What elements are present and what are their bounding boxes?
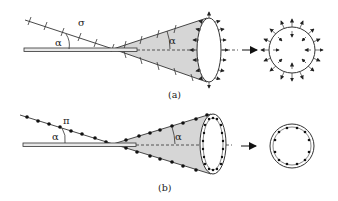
panel-a: σ α α — [24, 12, 323, 100]
alpha-label-left-a: α — [55, 37, 62, 48]
alpha-label-left-b: α — [52, 131, 59, 142]
cone-rotation-diagram: σ α α — [0, 0, 338, 201]
rod-a — [24, 48, 137, 52]
cone-base-ellipse-b — [200, 114, 226, 174]
alpha-label-cone-a: α — [169, 35, 176, 46]
pi-label: π — [63, 115, 70, 126]
angle-arc-left-b — [62, 128, 65, 143]
charged-line-a — [25, 20, 113, 49]
caption-a: (a) — [168, 89, 181, 100]
panel-b: π α α (b) — [20, 113, 314, 193]
alpha-label-cone-b: α — [175, 131, 182, 142]
field-arrows-circle-a — [261, 19, 323, 81]
cone-base-ellipse-a — [197, 18, 221, 82]
rod-b — [23, 143, 136, 147]
angle-arc-left-a — [66, 34, 69, 49]
caption-b: (b) — [158, 182, 172, 193]
inner-arrows-circle-a — [273, 31, 311, 69]
sigma-label: σ — [78, 17, 85, 28]
point-charges-circle-b — [274, 127, 311, 166]
unrolled-circle-b — [270, 124, 314, 168]
